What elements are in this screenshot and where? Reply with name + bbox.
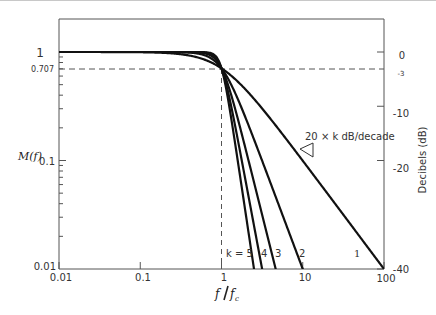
db-tick-label-0: 0 [399, 50, 405, 61]
db-tick-label-minus40: -40 [393, 264, 409, 275]
curve-k5 [59, 52, 255, 274]
left-axis-minor-ticks [59, 52, 66, 236]
svg-text:f: f [214, 287, 222, 301]
y-tick-label-0707: 0.707 [31, 65, 54, 74]
db-tick-label-minus10: -10 [393, 108, 409, 119]
svg-text:c: c [235, 295, 239, 303]
curve-label-k1: 1 [354, 248, 360, 259]
y-tick-label-0.01: 0.01 [34, 261, 56, 272]
curve-label-k3: 3 [275, 248, 281, 259]
x-tick-label-0.1: 0.1 [135, 272, 151, 283]
x-axis-label: f f c [214, 286, 239, 303]
right-axis-label: Decibels (dB) [417, 127, 428, 194]
x-tick-label-10: 10 [299, 272, 312, 283]
butterworth-magnitude-chart: 1 0.707 0.1 0.01 M(f) 0.01 0.1 1 10 100 … [0, 0, 436, 315]
curve-label-k2: 2 [299, 248, 305, 259]
y-tick-label-1: 1 [36, 46, 44, 60]
right-axis-ticks [377, 52, 384, 269]
db-tick-label-minus20: -20 [393, 163, 409, 174]
curve-k4 [59, 52, 264, 278]
y-axis-label: M(f) [17, 150, 42, 163]
slope-annotation: 20 × k dB/decade [305, 131, 395, 142]
curve-label-k5: k = 5 [226, 248, 253, 259]
x-tick-label-1: 1 [221, 272, 227, 283]
curve-k3 [59, 52, 278, 277]
x-tick-label-0.01: 0.01 [50, 272, 72, 283]
db-tick-label-minus3: -3 [398, 70, 405, 78]
curve-label-k4: 4 [261, 248, 267, 259]
slope-triangle-icon [300, 143, 313, 157]
